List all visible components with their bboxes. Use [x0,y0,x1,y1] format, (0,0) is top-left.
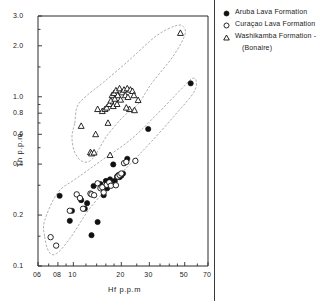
legend-sublabel-bonaire: (Bonaire) [242,44,333,53]
x-tick-label: 70 [203,271,211,278]
data-point [95,106,101,112]
data-point [85,201,90,206]
y-axis-label: Th p.p.m [15,133,24,167]
data-point [108,183,113,188]
data-point [80,206,85,211]
y-tick-label: 2.0 [13,42,23,49]
data-point [78,123,84,129]
scatter-chart-figure: 3.02.01.00.80.60.40.20.1 06081020305070 … [0,0,333,301]
data-point [48,234,53,239]
data-point [105,120,111,126]
data-point [91,193,96,198]
data-points [48,30,193,248]
x-tick-label: 10 [68,271,76,278]
data-point [132,107,138,113]
y-tick-label: 0.8 [13,109,23,116]
envelope-outlines [43,25,196,255]
x-axis-label: Hf p.p.m [108,285,141,294]
axes [38,16,208,266]
y-tick-label: 0.1 [13,262,23,269]
legend-divider [214,0,215,301]
data-point [119,171,124,176]
data-point [89,233,94,238]
data-point [67,208,72,213]
open-triangle-icon [222,32,231,41]
data-point [146,126,151,131]
data-point [133,158,138,163]
x-tick-label: 08 [53,271,61,278]
legend-label-aruba: Aruba Lava Formation [235,8,307,17]
x-tick-label: 06 [33,271,41,278]
data-point [107,152,113,158]
open-circle-icon [222,20,231,29]
y-tick-label: 3.0 [13,12,23,19]
y-tick-label: 1.0 [13,93,23,100]
y-tick-label: 0.2 [13,211,23,218]
data-point [124,159,129,164]
aruba-curacao-envelope [43,78,196,255]
data-point [77,195,82,200]
x-tick-label: 50 [180,271,188,278]
data-point [95,219,100,224]
series-2 [78,30,183,158]
x-tick-label: 20 [116,271,124,278]
data-point [177,30,183,36]
legend-item-washikamba: Washikamba Formation - [222,32,333,41]
legend-label-washikamba: Washikamba Formation - [235,32,316,41]
data-point [93,131,99,137]
data-point [188,81,193,86]
data-point [113,183,118,188]
data-point [53,243,58,248]
x-tick-label: 30 [144,271,152,278]
legend-label-curacao: Curaçao Lava Formation [235,20,315,29]
data-point [111,162,116,167]
data-point [57,193,62,198]
legend-item-aruba: Aruba Lava Formation [222,8,333,17]
data-point [67,218,72,223]
data-point [95,181,100,186]
filled-circle-icon [222,8,231,17]
chart-legend: Aruba Lava Formation Curaçao Lava Format… [222,8,333,53]
legend-item-curacao: Curaçao Lava Formation [222,20,333,29]
data-point [101,190,106,195]
